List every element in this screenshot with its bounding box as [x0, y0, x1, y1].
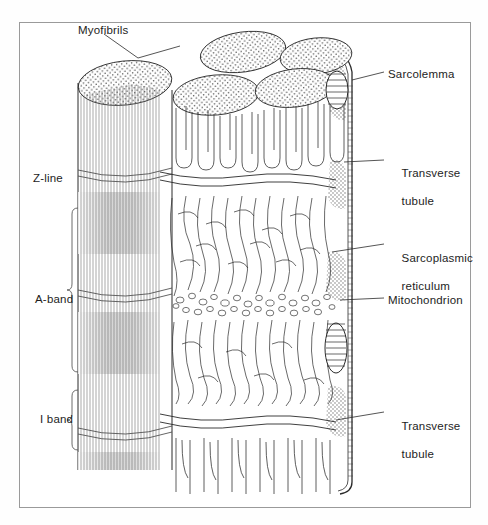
leader-transverse-tubule-upper [344, 160, 384, 162]
transverse-tubule-upper-structure [160, 172, 336, 188]
label-transverse-tubule-upper: Transverse tubule [388, 152, 460, 222]
label-sarcolemma: Sarcolemma [388, 68, 455, 82]
sr-tubules-bottom [176, 438, 330, 494]
sarcoplasm-stipple [326, 61, 346, 436]
mitochondrion-lower [325, 323, 347, 373]
terminal-cisternae-vesicles [173, 293, 335, 316]
leader-mitochondrion [340, 298, 384, 300]
mitochondrion-upper [326, 71, 348, 109]
sr-longitudinal-tubules [170, 196, 330, 296]
label-a-band: A-band [35, 293, 73, 307]
label-transverse-tubule-upper-line1: Transverse [401, 167, 460, 179]
leader-sarcoplasmic-reticulum [332, 244, 384, 252]
label-mitochondrion: Mitochondrion [388, 294, 463, 308]
label-sarcoplasmic-reticulum-line1: Sarcoplasmic [402, 252, 473, 264]
sr-tubules-lower [172, 320, 332, 406]
label-transverse-tubule-lower-line1: Transverse [401, 420, 460, 432]
label-transverse-tubule-upper-line2: tubule [402, 195, 435, 207]
transverse-tubule-lower-structure [160, 414, 336, 430]
label-myofibrils: Myofibrils [78, 24, 129, 38]
bracket-a-band [67, 208, 78, 372]
leader-myofibrils [104, 34, 180, 58]
label-transverse-tubule-lower: Transverse tubule [388, 405, 460, 475]
label-i-band: I band [40, 413, 73, 427]
label-transverse-tubule-lower-line2: tubule [402, 448, 435, 460]
sarcoplasmic-reticulum-network [160, 100, 344, 494]
label-z-line: Z-line [33, 172, 63, 186]
figure-canvas: Myofibrils Z-line A-band I band Sarcolem… [0, 0, 488, 525]
label-sarcoplasmic-reticulum-line2: reticulum [402, 280, 450, 292]
myofibril-cut-faces [76, 26, 354, 118]
myofibril-column [78, 83, 172, 492]
leader-sarcolemma [352, 72, 384, 80]
